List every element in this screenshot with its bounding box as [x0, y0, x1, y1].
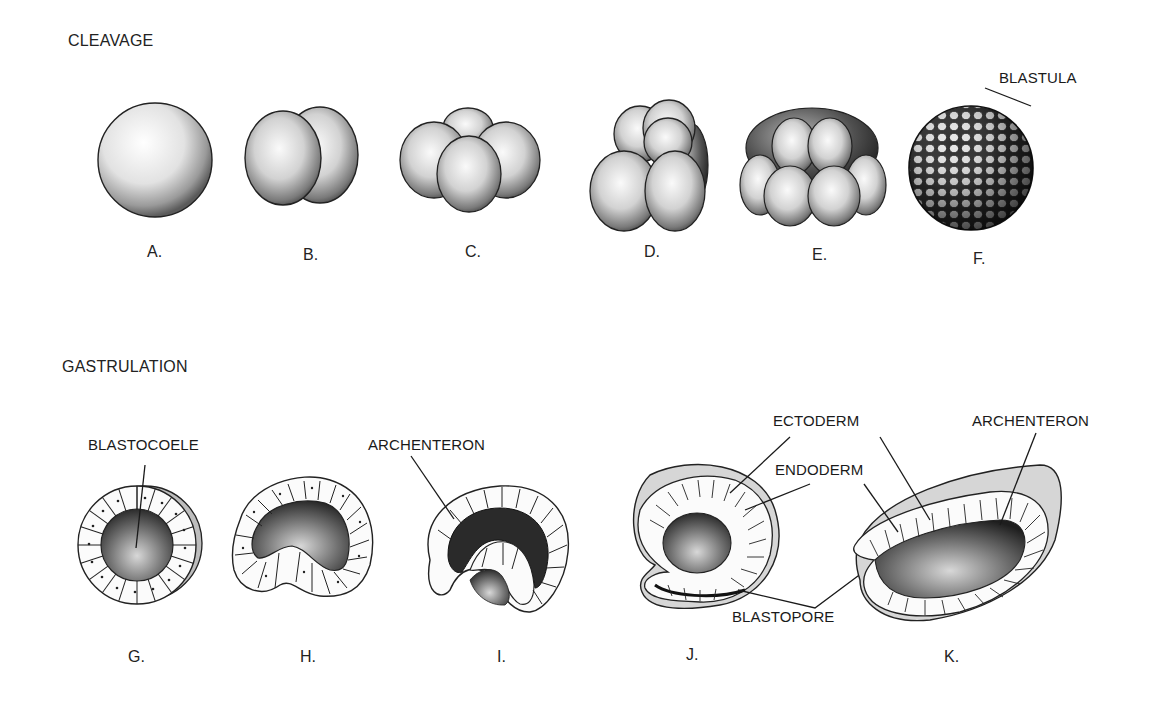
figure-g-blastocoele — [78, 465, 202, 604]
figure-letter-f: F. — [973, 250, 985, 268]
embryo-development-diagram: CLEAVAGE GASTRULATION A. B. C. D. E. F. … — [0, 0, 1166, 715]
figure-b-two-cell — [245, 107, 358, 205]
figure-letter-a: A. — [147, 243, 162, 261]
gastrulation-section-title: GASTRULATION — [62, 358, 188, 376]
archenteron-i-leader-line — [411, 456, 454, 519]
figure-letter-g: G. — [128, 648, 145, 666]
archenteron-i-callout: ARCHENTERON — [368, 436, 485, 453]
figure-letter-c: C. — [465, 243, 481, 261]
blastocoele-callout: BLASTOCOELE — [88, 436, 199, 453]
figure-k-late-gastrula — [854, 433, 1062, 621]
figure-letter-k: K. — [944, 648, 959, 666]
ectoderm-callout: ECTODERM — [773, 412, 859, 429]
figure-h-early-invagination — [232, 477, 372, 596]
archenteron-k-callout: ARCHENTERON — [972, 412, 1089, 429]
endoderm-callout: ENDODERM — [775, 461, 863, 478]
figure-f-blastula — [909, 88, 1033, 230]
figure-c-four-cell — [400, 108, 540, 212]
figure-letter-i: I. — [497, 648, 506, 666]
figure-d-eight-cell — [590, 100, 708, 231]
figure-e-sixteen-cell — [740, 108, 886, 226]
figure-a-zygote — [98, 103, 212, 217]
figure-letter-h: H. — [300, 648, 316, 666]
blastula-leader-line — [985, 88, 1031, 106]
cleavage-section-title: CLEAVAGE — [68, 32, 153, 50]
blastula-callout: BLASTULA — [999, 69, 1077, 86]
figure-letter-b: B. — [303, 246, 318, 264]
figure-letter-e: E. — [812, 246, 827, 264]
figure-letter-d: D. — [644, 243, 660, 261]
blastopore-callout: BLASTOPORE — [732, 608, 834, 625]
figure-i-invagination — [411, 456, 568, 612]
figure-letter-j: J. — [686, 646, 698, 664]
